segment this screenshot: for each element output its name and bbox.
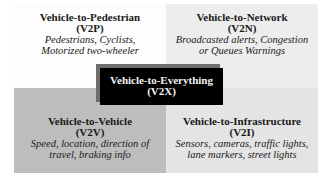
v2n-desc-line-1: Broadcasted alerts, Congestion: [166, 34, 318, 45]
v2i-desc-line-1: Sensors, cameras, traffic lights,: [166, 138, 318, 149]
v2i-abbr: (V2I): [166, 127, 318, 138]
v2p-desc-line-1: Pedestrians, Cyclists,: [14, 34, 166, 45]
v2x-abbr: (V2X): [100, 86, 223, 97]
v2v-abbr: (V2V): [14, 127, 166, 138]
v2v-desc-line-1: Speed, location, direction of: [14, 138, 166, 149]
v2i-desc-line-2: lane markers, street lights: [166, 149, 318, 160]
center-box-v2x: Vehicle-to-Everything (V2X): [100, 68, 223, 105]
v2p-abbr: (V2P): [14, 23, 166, 34]
v2p-desc-line-2: Motorized two-wheeler: [14, 45, 166, 56]
v2n-desc-line-2: or Queues Warnings: [166, 45, 318, 56]
v2n-abbr: (V2N): [166, 23, 318, 34]
v2v-desc-line-2: travel, braking info: [14, 149, 166, 160]
